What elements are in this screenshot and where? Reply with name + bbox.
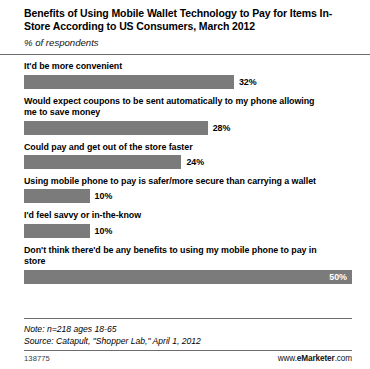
bar-value-label: 10%	[95, 189, 113, 203]
bar-track: 10%	[24, 224, 352, 238]
brand-suffix: .com	[335, 354, 352, 363]
bar-category-label: Could pay and get out of the store faste…	[24, 142, 352, 153]
bar-category-label: Don't think there'd be any benefits to u…	[24, 245, 352, 268]
brand-prefix: www.	[278, 354, 297, 363]
bar-track: 24%	[24, 155, 352, 169]
chart-id: 138775	[24, 354, 50, 363]
bar-track: 28%	[24, 121, 352, 135]
bar-value-label: 10%	[95, 224, 113, 238]
bar-chart-plot: It'd be more convenient 32% Would expect…	[24, 55, 352, 283]
bar-value-label: 50%	[329, 270, 347, 284]
bar-fill	[24, 121, 208, 135]
chart-subtitle: % of respondents	[24, 36, 352, 49]
chart-title: Benefits of Using Mobile Wallet Technolo…	[24, 7, 352, 33]
bar-category-label: Would expect coupons to be sent automati…	[24, 96, 352, 119]
bar-fill	[24, 189, 90, 203]
bar-category-label: Using mobile phone to pay is safer/more …	[24, 176, 352, 187]
bar-track: 10%	[24, 189, 352, 203]
bar-value-label: 28%	[213, 121, 231, 135]
bar-category-label: I'd feel savvy or in-the-know	[24, 210, 352, 221]
bar-value-label: 32%	[239, 75, 257, 89]
bar-fill: 50%	[24, 270, 352, 284]
bar-row: Don't think there'd be any benefits to u…	[24, 245, 352, 284]
bar-row: Could pay and get out of the store faste…	[24, 142, 352, 169]
brand-watermark: www.eMarketer.com	[278, 354, 352, 363]
bar-track: 32%	[24, 75, 352, 89]
bar-row: Would expect coupons to be sent automati…	[24, 96, 352, 135]
chart-header: Benefits of Using Mobile Wallet Technolo…	[24, 0, 352, 49]
bar-row: It'd be more convenient 32%	[24, 61, 352, 88]
chart-card: Benefits of Using Mobile Wallet Technolo…	[0, 0, 370, 369]
bar-value-label: 24%	[186, 155, 204, 169]
bar-fill	[24, 155, 181, 169]
bar-fill	[24, 75, 234, 89]
bar-row: I'd feel savvy or in-the-know 10%	[24, 210, 352, 237]
bar-track: 50%	[24, 270, 352, 284]
chart-footer: Note: n=218 ages 18-65 Source: Catapult,…	[0, 318, 370, 369]
footer-note: Note: n=218 ages 18-65	[24, 324, 352, 335]
brand-name: eMarketer	[297, 354, 335, 363]
footer-source: Source: Catapult, "Shopper Lab," April 1…	[24, 336, 352, 347]
bar-fill	[24, 224, 90, 238]
footer-notes: Note: n=218 ages 18-65 Source: Catapult,…	[24, 319, 352, 350]
bar-category-label: It'd be more convenient	[24, 61, 352, 72]
footer-bottom-row: 138775 www.eMarketer.com	[24, 351, 352, 369]
bar-row: Using mobile phone to pay is safer/more …	[24, 176, 352, 203]
